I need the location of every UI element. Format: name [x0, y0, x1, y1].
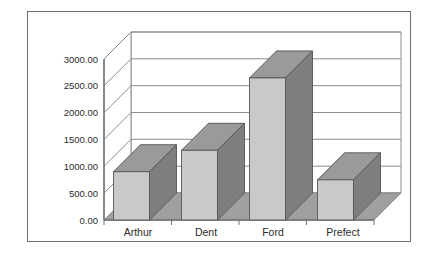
bar-chart-3d[interactable]: 3000.00 2500.00 2000.00 1500.00 1000.00 …: [28, 12, 410, 241]
category-label-dent: Dent: [195, 226, 217, 238]
bar-dent-front: [182, 150, 218, 220]
y-tick-label-3000: 3000.00: [64, 54, 98, 65]
chart-frame: 3000.00 2500.00 2000.00 1500.00 1000.00 …: [27, 11, 411, 242]
y-tick-label-2000: 2000.00: [64, 107, 98, 118]
y-tick-label-500: 500.00: [69, 188, 98, 199]
y-tick-label-0: 0.00: [80, 215, 99, 226]
x-axis-ticks: [104, 220, 374, 225]
y-axis-tick-labels: 3000.00 2500.00 2000.00 1500.00 1000.00 …: [64, 54, 98, 226]
x-axis-category-labels: Arthur Dent Ford Prefect: [124, 226, 360, 238]
bar-arthur-front: [114, 172, 150, 220]
y-tick-label-1500: 1500.00: [64, 134, 98, 145]
bar-prefect-front: [318, 180, 354, 220]
bar-ford-front: [250, 78, 286, 220]
bar-ford[interactable]: [250, 51, 313, 220]
y-tick-label-2500: 2500.00: [64, 80, 98, 91]
category-label-ford: Ford: [262, 226, 284, 238]
screenshot-canvas: 3000.00 2500.00 2000.00 1500.00 1000.00 …: [0, 0, 432, 260]
category-label-arthur: Arthur: [124, 226, 153, 238]
category-label-prefect: Prefect: [326, 226, 359, 238]
bar-ford-side: [286, 51, 313, 220]
y-tick-label-1000: 1000.00: [64, 161, 98, 172]
